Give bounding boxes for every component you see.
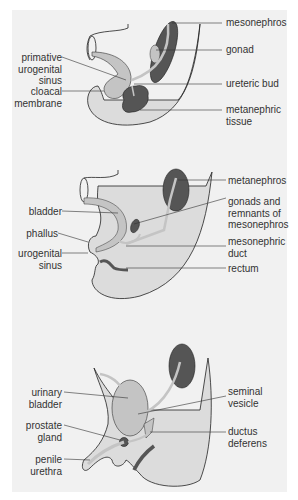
label-ureteric-bud: ureteric bud (226, 78, 279, 90)
panel-early-development (62, 18, 222, 125)
urinary-bladder (112, 380, 148, 436)
label-urogenital-sinus: urogenital sinus (18, 248, 62, 271)
label-ductus-deferens: ductus deferens (228, 426, 267, 449)
label-phallus: phallus (26, 228, 58, 240)
label-metanephric-tissue: metanephric tissue (226, 104, 281, 127)
label-prostate-gland: prostate gland (26, 420, 62, 443)
label-primitive-urogenital-sinus: primative urogenital sinus (18, 52, 62, 87)
label-cloacal-membrane: cloacal membrane (14, 86, 62, 109)
panel-adult-male (64, 344, 226, 486)
label-rectum: rectum (228, 263, 259, 275)
label-seminal-vesicle: seminal vesicle (228, 386, 262, 409)
metanephros (163, 169, 189, 211)
label-mesonephros: mesonephros (226, 17, 287, 29)
label-mesonephric-duct: mesonephric duct (228, 236, 285, 259)
label-urinary-bladder: urinary bladder (29, 387, 62, 410)
label-gonad: gonad (226, 44, 254, 56)
label-metanephros: metanephros (228, 175, 286, 187)
label-bladder: bladder (29, 206, 62, 218)
panel-middle-development (58, 169, 226, 299)
label-penile-urethra: penile urethra (30, 454, 62, 477)
label-gonads-and-remnants: gonads and remnants of mesonephros (228, 196, 289, 231)
